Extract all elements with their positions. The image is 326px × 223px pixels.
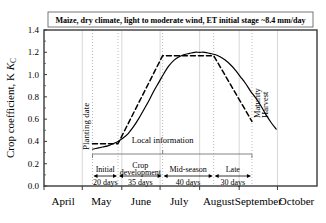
annotation-planting-date: Planting date (81, 103, 91, 150)
stage-label-late: Late (226, 165, 241, 174)
chart-canvas: 0.00.20.40.60.81.01.21.4AprilMayJuneJuly… (0, 0, 326, 223)
ytick-label-1.0: 1.0 (28, 70, 40, 80)
svg-text:Crop coefficient, K KC: Crop coefficient, K KC (4, 58, 18, 158)
ytick-label-0.4: 0.4 (28, 136, 40, 146)
annotation-local-information: Local information (132, 135, 194, 145)
ytick-label-0.2: 0.2 (28, 159, 39, 169)
xtick-label-july: July (170, 195, 189, 207)
stage-days-3: 30 days (220, 178, 245, 187)
xtick-label-september: September (235, 195, 282, 207)
chart-title: Maize, dry climate, light to moderate wi… (55, 16, 305, 25)
ytick-label-0.8: 0.8 (28, 92, 40, 102)
annotation-harvest: Harvest (260, 91, 270, 118)
stage-days-2: 40 days (176, 178, 201, 187)
stage-label-initial: Initial (96, 165, 116, 174)
crop-coefficient-chart: 0.00.20.40.60.81.01.21.4AprilMayJuneJuly… (0, 0, 326, 223)
ytick-label-1.2: 1.2 (28, 47, 39, 57)
y-axis-label: Crop coefficient, K KC (4, 58, 18, 158)
xtick-label-may: May (91, 195, 112, 207)
stage-days-0: 20 days (93, 178, 118, 187)
xtick-label-august: August (203, 195, 235, 207)
xtick-label-june: June (131, 195, 151, 207)
ytick-label-1.4: 1.4 (28, 25, 40, 35)
ytick-label-0.6: 0.6 (28, 114, 40, 124)
xtick-label-october: October (279, 195, 315, 207)
stage-label-mid-season: Mid-season (169, 165, 206, 174)
stage-days-1: 35 days (128, 178, 153, 187)
ytick-label-0.0: 0.0 (28, 181, 40, 191)
xtick-label-april: April (52, 195, 75, 207)
